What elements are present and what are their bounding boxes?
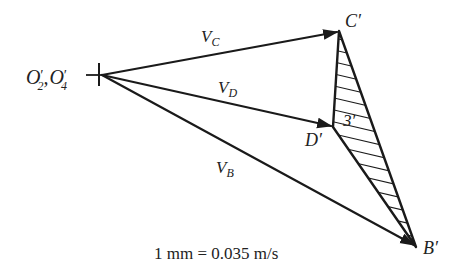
label-link-3: 3′ (342, 111, 356, 130)
vector-vd (102, 75, 331, 126)
vector-vc (102, 32, 337, 75)
velocity-polygon-diagram: O′2,O′4 VC VD VB C′ D′ B′ 3′ 1 mm = 0.03… (0, 0, 471, 276)
label-vc: VC (201, 27, 220, 49)
label-vb: VB (216, 158, 234, 180)
label-point-d: D′ (304, 130, 323, 150)
svg-text:O′2,O′4: O′2,O′4 (26, 66, 67, 93)
vector-vb (102, 75, 414, 245)
scale-text: 1 mm = 0.035 m/s (154, 244, 278, 263)
label-vd: VD (218, 78, 237, 100)
label-point-b: B′ (423, 238, 439, 258)
label-point-c: C′ (345, 11, 362, 31)
origin-label: O′2,O′4 (26, 66, 67, 93)
